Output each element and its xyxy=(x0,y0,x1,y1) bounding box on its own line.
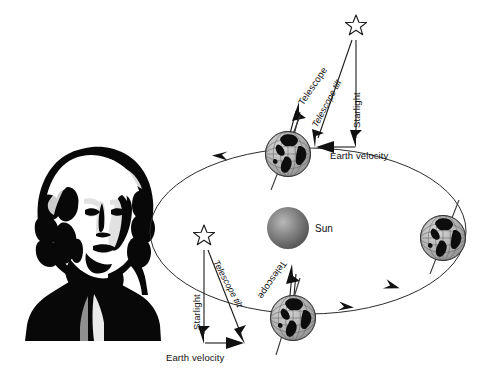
label-starlight-lower: Starlight xyxy=(191,294,202,330)
diagram-page: Sun xyxy=(0,0,488,383)
astronomer-portrait xyxy=(25,147,161,341)
label-earth-velocity-upper: Earth velocity xyxy=(330,150,389,161)
earth-right xyxy=(420,200,465,274)
star-lower xyxy=(194,225,215,245)
earth-bottom xyxy=(270,295,315,340)
earth-velocity-arrow-lower xyxy=(205,337,244,349)
label-earth-velocity-lower: Earth velocity xyxy=(166,352,225,363)
star-upper xyxy=(346,15,367,35)
earth-top xyxy=(265,131,310,176)
label-starlight-upper: Starlight xyxy=(351,92,362,128)
stellar-aberration-figure: Sun xyxy=(0,0,488,383)
sun: Sun xyxy=(267,207,333,249)
sun-label: Sun xyxy=(315,223,333,234)
label-telescope-lower: Telescope xyxy=(256,259,290,301)
